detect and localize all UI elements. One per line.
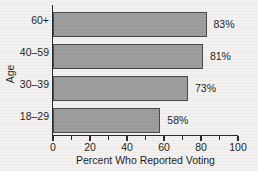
bar-18-29 [53, 108, 160, 133]
bar-value-30-39: 73% [195, 82, 216, 94]
bar-40-59 [53, 44, 203, 69]
x-tick-50 [145, 136, 146, 140]
x-axis-title: Percent Who Reported Voting [53, 154, 238, 166]
bar-chart: Age 60+ 40–59 30–39 18–29 83% 81% 73% 58… [0, 0, 258, 171]
x-tick-label-60: 60 [158, 141, 170, 153]
x-tick-label-80: 80 [195, 141, 207, 153]
plot-area: 83% 81% 73% 58% [53, 6, 238, 134]
bar-value-18-29: 58% [167, 114, 188, 126]
x-tick-90 [219, 136, 220, 140]
bar-30-39 [53, 76, 188, 101]
x-tick-30 [108, 136, 109, 140]
y-axis-tick-labels: 60+ 40–59 30–39 18–29 [0, 0, 49, 140]
x-tick-label-20: 20 [84, 141, 96, 153]
y-axis-label-3: 18–29 [5, 110, 49, 122]
x-tick-label-0: 0 [50, 141, 56, 153]
bar-value-60-plus: 83% [214, 18, 235, 30]
x-tick-label-40: 40 [121, 141, 133, 153]
x-tick-10 [71, 136, 72, 140]
y-axis-label-0: 60+ [5, 14, 49, 26]
bar-value-40-59: 81% [210, 50, 231, 62]
y-axis-label-1: 40–59 [5, 46, 49, 58]
x-tick-70 [182, 136, 183, 140]
bar-60-plus [53, 12, 207, 37]
x-tick-label-100: 100 [229, 141, 247, 153]
y-axis-label-2: 30–39 [5, 78, 49, 90]
